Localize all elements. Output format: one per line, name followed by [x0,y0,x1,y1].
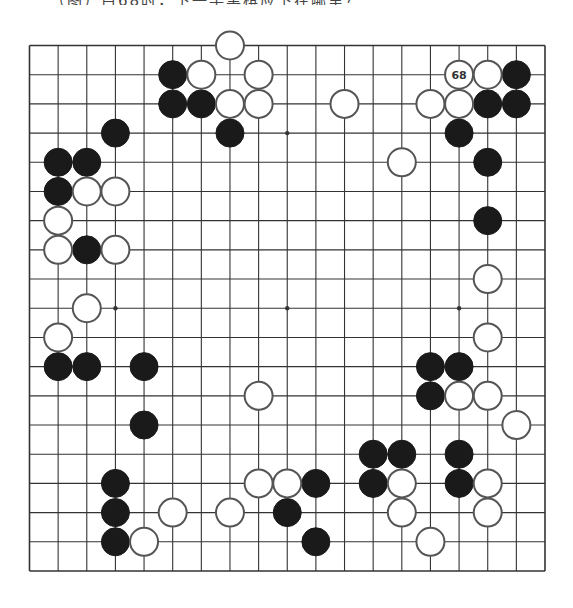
black-stone [187,90,215,118]
star-point [113,306,117,310]
black-stone [474,148,502,176]
go-board[interactable]: 68 [0,0,573,608]
white-stone [416,90,444,118]
white-stone [245,382,273,410]
black-stone [101,119,129,147]
white-stone [474,499,502,527]
black-stone [130,411,158,439]
black-stone [474,207,502,235]
white-stone [216,32,244,60]
star-point [285,306,289,310]
black-stone [101,499,129,527]
black-stone [445,440,473,468]
white-stone [445,382,473,410]
black-stone [302,469,330,497]
white-stone [73,294,101,322]
white-stone [474,61,502,89]
black-stone [445,353,473,381]
white-stone [445,90,473,118]
black-stone [159,61,187,89]
white-stone [44,207,72,235]
white-stone [44,236,72,264]
white-stone [73,177,101,205]
black-stone [44,177,72,205]
black-stone [416,353,444,381]
black-stone [359,440,387,468]
black-stone [502,61,530,89]
white-stone [474,469,502,497]
black-stone [130,353,158,381]
white-stone [101,236,129,264]
black-stone [445,469,473,497]
black-stone [416,382,444,410]
white-stone [502,411,530,439]
black-stone [73,148,101,176]
black-stone [44,148,72,176]
white-stone [245,90,273,118]
white-stone [216,90,244,118]
black-stone [388,440,416,468]
white-stone [416,528,444,556]
white-stone [44,323,72,351]
black-stone [101,528,129,556]
white-stone [101,177,129,205]
black-stone [216,119,244,147]
white-stone [159,499,187,527]
white-stone [474,382,502,410]
white-stone [216,499,244,527]
white-stone [245,61,273,89]
white-stone [331,90,359,118]
star-point [285,131,289,135]
white-stone [388,148,416,176]
black-stone [73,236,101,264]
black-stone [445,119,473,147]
black-stone [474,90,502,118]
black-stone [502,90,530,118]
white-stone [388,469,416,497]
star-point [457,306,461,310]
black-stone [73,353,101,381]
black-stone [159,90,187,118]
white-stone [474,323,502,351]
white-stone [187,61,215,89]
move-number-label: 68 [451,69,466,82]
black-stone [44,353,72,381]
white-stone [388,499,416,527]
black-stone [359,469,387,497]
black-stone [101,469,129,497]
white-stone [474,265,502,293]
white-stone [273,469,301,497]
black-stone [273,499,301,527]
black-stone [302,528,330,556]
white-stone [245,469,273,497]
white-stone [130,528,158,556]
